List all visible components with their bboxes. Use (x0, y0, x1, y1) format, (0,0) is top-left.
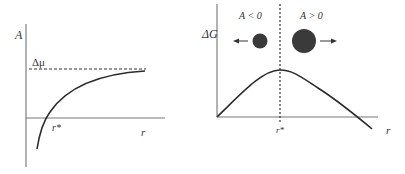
large-particle-icon (292, 29, 316, 53)
small-particle-icon (253, 34, 268, 49)
left-y-axis-label: A (14, 28, 23, 42)
left-x-axis-label: r (141, 126, 146, 138)
left-panel: A Δμ r* r (14, 24, 165, 167)
left-r-star-label: r* (52, 122, 61, 133)
free-energy-curve (217, 70, 372, 129)
arrow-right-icon (320, 39, 337, 44)
right-r-star-label: r* (276, 125, 285, 135)
delta-g-label: ΔG (201, 27, 218, 41)
affinity-curve (37, 71, 145, 149)
right-x-axis-label: r (386, 124, 391, 136)
delta-mu-label: Δμ (32, 56, 45, 68)
region-right-label: A > 0 (299, 10, 323, 21)
right-panel: ΔG A < 0 A > 0 r* r (201, 4, 391, 136)
arrow-left-icon (233, 39, 248, 44)
region-left-label: A < 0 (238, 10, 262, 21)
diagram-canvas: A Δμ r* r ΔG A < 0 A > 0 r* r (0, 0, 405, 174)
